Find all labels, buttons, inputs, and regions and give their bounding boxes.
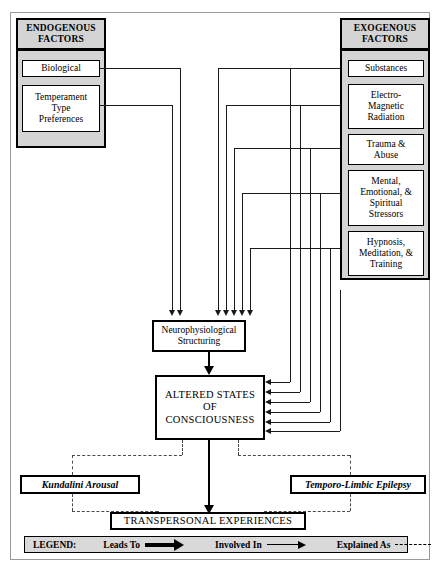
conn-temperament-arrow	[169, 310, 175, 316]
node-kundalini-label: Kundalini Arousal	[42, 479, 119, 491]
dash-left-top-h	[72, 455, 182, 456]
conn-asc-6-arrow	[265, 428, 271, 434]
thin-arrow-icon	[267, 544, 299, 546]
node-hypnosis-line2: Meditation, &	[359, 248, 413, 259]
exogenous-header-line2: FACTORS	[354, 34, 417, 45]
node-hypnosis-meditation-training[interactable]: Hypnosis, Meditation, & Training	[348, 231, 424, 276]
node-substances-label: Substances	[365, 63, 407, 74]
node-neurophysiological-structuring[interactable]: Neurophysiological Structuring	[152, 320, 246, 352]
node-kundalini-arousal[interactable]: Kundalini Arousal	[20, 475, 140, 494]
conn-asc-2-arrow	[265, 389, 271, 395]
node-temporo-limbic-epilepsy[interactable]: Temporo-Limbic Epilepsy	[290, 475, 426, 494]
node-emr-line3: Radiation	[368, 112, 405, 123]
exogenous-header-line1: EXOGENOUS	[354, 23, 417, 34]
node-biological[interactable]: Biological	[22, 60, 100, 77]
dash-left-top-v	[182, 440, 183, 455]
conn-asc-1-arrow	[265, 379, 271, 385]
node-hypnosis-line3: Training	[359, 259, 413, 270]
conn-biological-v	[180, 68, 181, 311]
diagram-canvas: ENDOGENOUS FACTORS Biological Temperamen…	[0, 0, 447, 572]
node-hypnosis-line1: Hypnosis,	[359, 237, 413, 248]
endogenous-header-line2: FACTORS	[26, 34, 96, 45]
conn-asc-transpersonal-line	[208, 440, 210, 510]
conn-temperament-h	[100, 105, 172, 106]
conn-trauma-v	[234, 148, 235, 311]
dash-right-down-v	[350, 455, 351, 475]
conn-asc-3-v	[310, 148, 311, 402]
conn-asc-6-v	[340, 290, 341, 431]
node-temperament-line1: Temperament	[35, 92, 87, 103]
conn-hypnosis-v	[250, 248, 251, 311]
legend-entry-leads-to: Leads To	[103, 540, 175, 550]
conn-asc-2-v	[300, 105, 301, 392]
legend: LEGEND: Leads To Involved In Explained A…	[24, 536, 408, 553]
conn-asc-5-arrow	[265, 419, 271, 425]
legend-entry-involved-in: Involved In	[215, 540, 299, 550]
node-altered-states-of-consciousness[interactable]: ALTERED STATES OF CONSCIOUSNESS	[155, 375, 265, 440]
node-biological-label: Biological	[41, 63, 81, 74]
legend-leads-to-label: Leads To	[103, 540, 140, 550]
conn-substances-v	[218, 68, 219, 311]
conn-trauma-h	[234, 148, 340, 149]
node-temporo-limbic-label: Temporo-Limbic Epilepsy	[305, 479, 411, 491]
asc-line2: OF CONSCIOUSNESS	[159, 401, 261, 425]
node-temperament-line3: Preferences	[35, 114, 87, 125]
conn-hypnosis-arrow	[247, 310, 253, 316]
legend-title: LEGEND:	[33, 540, 76, 550]
conn-stressors-h	[242, 193, 340, 194]
conn-asc-5-h	[271, 422, 330, 423]
node-electromagnetic-radiation[interactable]: Electro- Magnetic Radiation	[348, 84, 424, 129]
conn-asc-1-h	[271, 382, 290, 383]
node-stressors-line1: Mental,	[360, 176, 412, 187]
node-trauma-abuse[interactable]: Trauma & Abuse	[348, 134, 424, 165]
node-transpersonal-experiences[interactable]: TRANSPERSONAL EXPERIENCES	[110, 512, 306, 530]
dash-right-top-h	[238, 455, 350, 456]
dash-right-top-v	[238, 440, 239, 455]
conn-emr-v	[226, 105, 227, 311]
conn-asc-4-v	[320, 193, 321, 412]
dash-left-bottom-v	[72, 494, 73, 511]
node-substances[interactable]: Substances	[348, 60, 424, 77]
conn-trauma-arrow	[231, 310, 237, 316]
endogenous-header: ENDOGENOUS FACTORS	[16, 18, 106, 51]
endogenous-header-line1: ENDOGENOUS	[26, 23, 96, 34]
dashed-line-icon	[395, 544, 431, 545]
node-stressors-line4: Stressors	[360, 209, 412, 220]
transpersonal-label: TRANSPERSONAL EXPERIENCES	[124, 515, 292, 527]
node-stressors-line3: Spiritual	[360, 198, 412, 209]
exogenous-header: EXOGENOUS FACTORS	[340, 18, 430, 51]
asc-line1: ALTERED STATES	[159, 389, 261, 401]
conn-asc-5-v	[330, 248, 331, 422]
conn-asc-4-h	[271, 412, 320, 413]
thick-arrow-icon	[145, 543, 175, 547]
conn-emr-h	[226, 105, 340, 106]
node-trauma-line1: Trauma &	[367, 139, 406, 150]
conn-asc-4-arrow	[265, 409, 271, 415]
node-emr-line1: Electro-	[368, 90, 405, 101]
legend-involved-in-label: Involved In	[215, 540, 262, 550]
node-temperament-line2: Type	[35, 103, 87, 114]
dash-left-down-v	[72, 455, 73, 475]
conn-asc-1-v	[290, 68, 291, 382]
legend-entry-explained-as: Explained As	[337, 540, 432, 550]
conn-biological-arrow	[177, 310, 183, 316]
conn-biological-h	[100, 68, 180, 69]
legend-explained-as-label: Explained As	[337, 540, 391, 550]
conn-stressors-v	[242, 193, 243, 311]
dash-right-bottom-v	[350, 494, 351, 511]
conn-asc-3-h	[271, 402, 310, 403]
conn-substances-h	[218, 68, 340, 69]
conn-neuro-asc-line	[208, 352, 210, 367]
conn-neuro-asc-arrow	[204, 366, 214, 375]
conn-substances-arrow	[215, 310, 221, 316]
neuro-line2: Structuring	[162, 336, 237, 347]
node-temperament[interactable]: Temperament Type Preferences	[22, 85, 100, 132]
conn-asc-3-arrow	[265, 399, 271, 405]
node-emr-line2: Magnetic	[368, 101, 405, 112]
node-trauma-line2: Abuse	[367, 150, 406, 161]
conn-temperament-v	[172, 105, 173, 311]
conn-asc-6-h	[271, 431, 340, 432]
node-mental-emotional-spiritual-stressors[interactable]: Mental, Emotional, & Spiritual Stressors	[348, 170, 424, 226]
conn-hypnosis-h	[250, 248, 340, 249]
conn-asc-2-h	[271, 392, 300, 393]
